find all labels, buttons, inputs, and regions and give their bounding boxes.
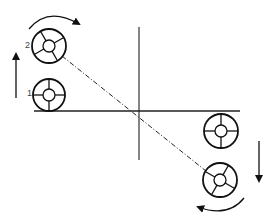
wheel-1-label: 1 — [27, 89, 32, 98]
wheel-2-icon — [32, 29, 66, 63]
clockwise-arrow-icon — [29, 16, 79, 29]
counterclockwise-arrow-icon — [198, 198, 244, 211]
diagram-canvas — [0, 0, 274, 220]
dashed-diagonal-line — [62, 56, 221, 183]
wheel-right-lower-icon — [203, 163, 237, 197]
wheel-2-label: 2 — [25, 41, 30, 50]
wheel-right-upper-icon — [204, 114, 238, 148]
wheel-1-icon — [33, 79, 65, 111]
